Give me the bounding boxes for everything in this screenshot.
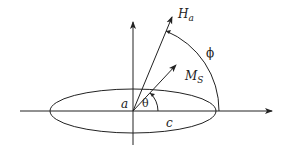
label-ms: MS (184, 69, 203, 85)
label-c: c (166, 116, 173, 130)
theta-arc-arrowhead (150, 93, 155, 97)
label-theta: θ (142, 97, 149, 110)
label-a: a (121, 97, 128, 111)
label-phi: ϕ (206, 46, 214, 60)
label-ha: Ha (177, 7, 194, 23)
magnetization-vector-ms (133, 65, 176, 111)
ellipsoid-field-diagram: Ha MS ϕ θ a c (0, 0, 287, 151)
theta-angle-arc (150, 93, 158, 111)
